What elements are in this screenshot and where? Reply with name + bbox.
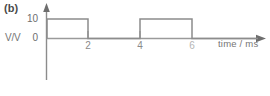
x-tick-label-6: 6 [185,40,199,51]
figure-panel-b: (b) V/V time / ms 10 0 2 4 6 [0,0,270,96]
y-tick-label-10: 10 [18,13,38,24]
x-tick-label-2: 2 [81,40,95,51]
y-tick-label-0: 0 [22,32,38,43]
y-axis-arrowhead [43,3,50,12]
x-axis-label: time / ms [218,38,258,49]
waveform-trace [47,19,258,39]
x-tick-label-4: 4 [133,40,147,51]
y-axis-label: V/V [5,32,21,43]
